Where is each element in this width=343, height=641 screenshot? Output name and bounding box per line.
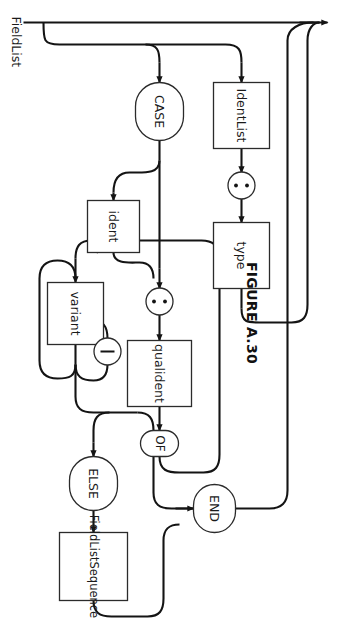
wire-entry-to-case-lane xyxy=(145,44,159,62)
wire-entry-to-branches xyxy=(43,22,241,62)
node-fieldlistsequence-label: FieldListSequence xyxy=(86,514,100,617)
node-bar-separator[interactable]: | xyxy=(94,338,121,365)
node-else[interactable]: ELSE xyxy=(69,456,117,510)
node-qualident[interactable]: qualident xyxy=(127,340,191,406)
wire-ident-out xyxy=(113,252,153,278)
node-qualident-label: qualident xyxy=(152,344,167,403)
node-of-label: OF xyxy=(152,435,166,451)
rotated-figure-wrapper: IdentList : type CASE xyxy=(0,0,343,641)
railroad-diagram-canvas: IdentList : type CASE xyxy=(0,0,343,641)
production-title: FieldList xyxy=(8,16,23,67)
wire-else-branch-down xyxy=(93,412,109,442)
node-end[interactable]: END xyxy=(193,484,235,532)
wire-to-end xyxy=(137,412,193,508)
node-identlist-label: IdentList xyxy=(234,88,249,142)
node-case-label: CASE xyxy=(152,94,167,127)
node-ident[interactable]: ident xyxy=(87,200,139,252)
figure-caption-wrapper: FIGURE A.30 xyxy=(236,262,262,382)
figure-page: IdentList : type CASE xyxy=(0,0,343,641)
node-variant-label: variant xyxy=(68,291,83,335)
node-end-label: END xyxy=(207,495,222,522)
node-identlist[interactable]: IdentList xyxy=(213,82,269,148)
node-ident-label: ident xyxy=(106,210,121,242)
figure-caption: FIGURE A.30 xyxy=(244,262,260,364)
railroad-diagram-svg: IdentList : type CASE xyxy=(0,0,343,641)
node-colon-2[interactable]: : xyxy=(146,288,173,315)
wire-ident-detour-down xyxy=(113,160,159,192)
node-fieldlistsequence[interactable]: FieldListSequence xyxy=(59,514,127,617)
node-case[interactable]: CASE xyxy=(135,82,183,140)
node-else-label: ELSE xyxy=(86,468,101,499)
wire-loop-to-bar xyxy=(75,364,107,380)
node-variant[interactable]: variant xyxy=(47,282,103,344)
node-colon-1[interactable]: : xyxy=(228,172,255,199)
node-of[interactable]: OF xyxy=(140,430,178,456)
